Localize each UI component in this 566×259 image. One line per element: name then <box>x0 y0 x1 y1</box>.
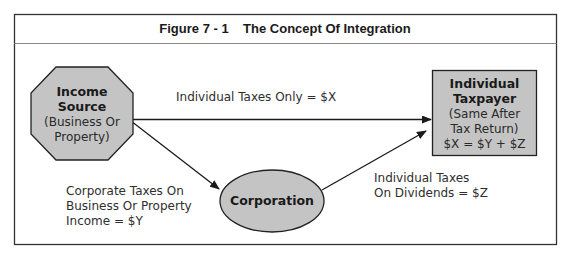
dividends-line1: Individual Taxes <box>374 171 469 185</box>
corporation-label: Corporation <box>230 193 314 208</box>
taxpayer-line4: Tax Return) <box>449 122 518 136</box>
taxpayer-line1: Individual <box>450 76 520 91</box>
node-income-source: Income Source (Business Or Property) <box>31 67 133 160</box>
corporate-taxes-line3: Income = $Y <box>66 214 143 228</box>
corporate-taxes-line2: Business Or Property <box>66 199 192 213</box>
income-source-line4: Property) <box>54 130 109 144</box>
income-source-line2: Source <box>58 99 107 114</box>
income-source-line1: Income <box>56 84 107 99</box>
taxpayer-line3: (Same After <box>449 107 520 121</box>
taxpayer-line2: Taxpayer <box>453 91 517 106</box>
node-individual-taxpayer: Individual Taxpayer (Same After Tax Retu… <box>433 71 537 156</box>
node-corporation: Corporation <box>220 170 324 232</box>
edge-direct-label: Individual Taxes Only = $X <box>176 90 336 104</box>
income-source-line3: (Business Or <box>44 115 120 129</box>
dividends-line2: On Dividends = $Z <box>374 186 488 200</box>
integration-diagram: Figure 7 - 1 The Concept Of Integration … <box>0 0 566 259</box>
taxpayer-line5: $X = $Y + $Z <box>443 137 525 151</box>
corporate-taxes-line1: Corporate Taxes On <box>66 184 184 198</box>
figure-title: Figure 7 - 1 The Concept Of Integration <box>159 21 410 36</box>
